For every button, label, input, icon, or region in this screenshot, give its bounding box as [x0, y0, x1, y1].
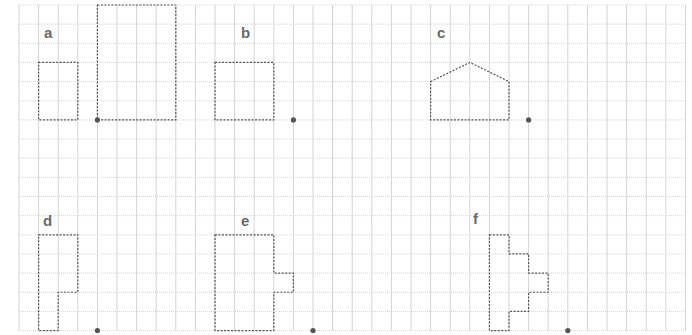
centre-dot [95, 117, 100, 122]
figure-label-a: a [44, 25, 52, 40]
figure-b [215, 62, 296, 122]
grid-lines [19, 5, 685, 331]
centre-dot [95, 328, 100, 333]
grid-diagram: abcdef [0, 0, 692, 335]
figure-label-e: e [241, 213, 249, 228]
centre-dot [526, 117, 531, 122]
centre-dot [291, 117, 296, 122]
dashed-shape [489, 235, 548, 331]
centre-dot [565, 328, 570, 333]
figure-label-d: d [43, 213, 52, 228]
figure-label-c: c [437, 25, 445, 40]
centre-dot [310, 328, 315, 333]
figure-c [431, 62, 532, 122]
figure-a [39, 5, 176, 123]
figure-e [215, 235, 316, 333]
square-grid [0, 0, 692, 335]
figure-f [489, 235, 570, 333]
figure-d [39, 235, 100, 333]
figure-label-f: f [473, 211, 478, 226]
dashed-shape [215, 62, 274, 119]
figure-label-b: b [241, 25, 250, 40]
